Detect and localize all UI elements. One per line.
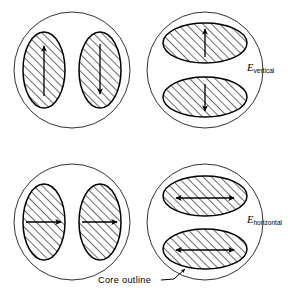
- field-subscript: horizontal: [253, 219, 282, 226]
- core-outline-label: Core outline: [98, 275, 151, 285]
- domain-top-left-1: [23, 32, 65, 108]
- domain-bottom-left-2: [79, 184, 121, 260]
- field-subscript: vertical: [253, 67, 274, 74]
- domain-top-right-2: [163, 77, 247, 117]
- domain-bottom-right-1: [163, 176, 247, 216]
- domain-ellipse: [163, 176, 247, 216]
- figure-canvas: Evertical: [0, 0, 288, 293]
- domain-top-right-1: [163, 23, 247, 63]
- domain-bottom-right-2: [163, 229, 247, 269]
- core-domain-figure: Evertical: [0, 0, 288, 293]
- domain-top-left-2: [79, 32, 121, 108]
- domain-bottom-left-1: [23, 184, 65, 260]
- domain-ellipse: [163, 229, 247, 269]
